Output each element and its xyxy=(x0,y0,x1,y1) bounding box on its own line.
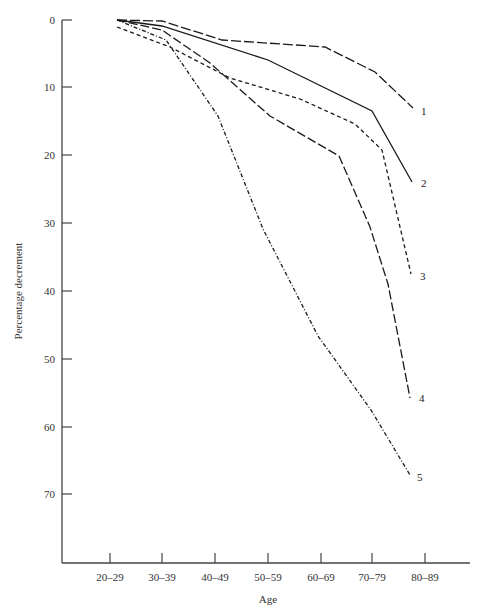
series-line-4 xyxy=(117,20,410,398)
x-tick-label: 60–69 xyxy=(307,571,335,583)
series-label-4: 4 xyxy=(419,392,425,404)
y-axis-title: Percentage decrement xyxy=(12,243,24,340)
series-label-1: 1 xyxy=(421,105,427,117)
series-label-5: 5 xyxy=(417,471,423,483)
x-ticks xyxy=(110,553,425,563)
series-label-2: 2 xyxy=(421,177,427,189)
y-ticks xyxy=(62,20,72,494)
y-tick-label: 70 xyxy=(44,488,56,500)
y-tick-label: 0 xyxy=(50,14,56,26)
series-line-5 xyxy=(117,20,410,475)
y-tick-label: 30 xyxy=(44,217,56,229)
series-line-1 xyxy=(117,20,413,108)
series-line-3 xyxy=(117,27,411,274)
x-tick-labels: 20–29 30–39 40–49 50–59 60–69 70–79 80–8… xyxy=(96,571,439,583)
series-labels: 1 2 3 4 5 xyxy=(417,105,427,483)
series-line-2 xyxy=(117,20,412,182)
x-tick-label: 20–29 xyxy=(96,571,124,583)
x-axis-title: Age xyxy=(259,593,277,605)
series-label-3: 3 xyxy=(420,270,426,282)
y-tick-labels: 0 10 20 30 40 50 60 70 xyxy=(44,14,56,500)
x-tick-label: 80–89 xyxy=(411,571,439,583)
x-tick-label: 50–59 xyxy=(254,571,282,583)
y-tick-label: 10 xyxy=(44,81,56,93)
y-tick-label: 60 xyxy=(44,421,56,433)
y-tick-label: 20 xyxy=(44,149,56,161)
y-tick-label: 40 xyxy=(44,285,56,297)
chart: 0 10 20 30 40 50 60 70 20–29 30–39 40–49… xyxy=(0,0,486,614)
x-tick-label: 30–39 xyxy=(148,571,176,583)
y-tick-label: 50 xyxy=(44,353,56,365)
x-tick-label: 40–49 xyxy=(201,571,229,583)
x-tick-label: 70–79 xyxy=(358,571,386,583)
